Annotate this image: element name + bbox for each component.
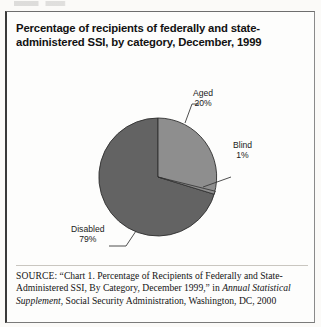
pie-label-blind-name: Blind [233,140,252,150]
pie-chart-svg [7,56,315,260]
pie-label-disabled: Disabled 79% [71,224,104,244]
scan-artifact-top [14,1,84,6]
pie-label-aged-value: 20% [193,98,213,108]
pie-label-aged: Aged 20% [193,88,213,108]
pie-label-disabled-name: Disabled [71,224,104,234]
figure-frame: Percentage of recipients of federally an… [5,11,315,323]
pie-label-aged-name: Aged [193,88,213,98]
leader-line-disabled [109,231,136,246]
source-label: SOURCE: [16,270,57,281]
divider [16,265,308,266]
pie-label-blind: Blind 1% [233,140,252,160]
pie-label-blind-value: 1% [233,150,252,160]
pie-label-disabled-value: 79% [71,234,104,244]
source-note: SOURCE: “Chart 1. Percentage of Recipien… [16,270,309,307]
page-title: Percentage of recipients of federally an… [16,21,308,49]
source-text-part2: , Social Security Administration, Washin… [61,295,276,306]
pie-chart: Aged 20% Blind 1% Disabled 79% [7,56,315,260]
